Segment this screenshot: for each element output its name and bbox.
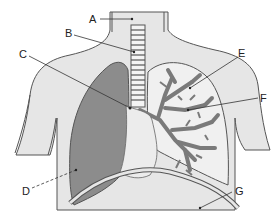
trachea <box>131 25 145 107</box>
label-E: E <box>238 47 245 59</box>
label-D: D <box>22 185 30 197</box>
respiratory-diagram: A B C D E F G <box>0 0 279 223</box>
label-G: G <box>235 185 244 197</box>
label-B: B <box>65 27 72 39</box>
label-A: A <box>89 13 97 25</box>
label-F: F <box>260 92 267 104</box>
label-C: C <box>19 48 27 60</box>
